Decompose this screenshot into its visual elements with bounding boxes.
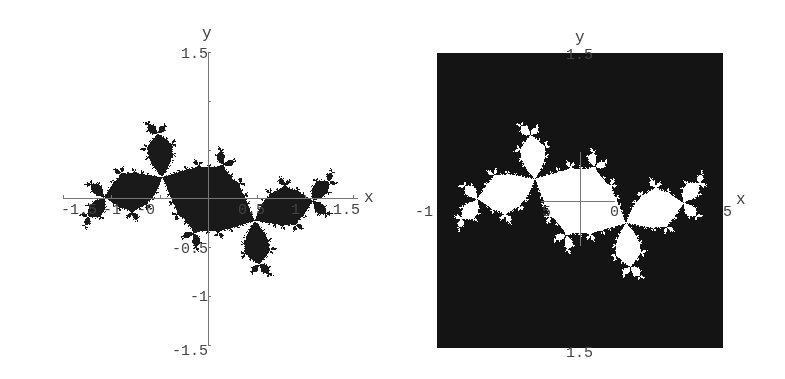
x-tick-label: 0 [610,205,619,220]
x-tick-label: 5 [542,205,551,220]
y-tick-label: 1.5 [566,346,593,361]
x-tick-label: 5 [723,205,732,220]
y-axis-title: y [575,30,585,46]
inverted-julia-set-image [0,0,785,379]
x-axis-title: x [736,192,746,208]
right-plot: y x -1505 1.51.5 [0,0,785,379]
x-tick-label: -1 [415,205,433,220]
y-tick-label: 1.5 [566,48,593,63]
